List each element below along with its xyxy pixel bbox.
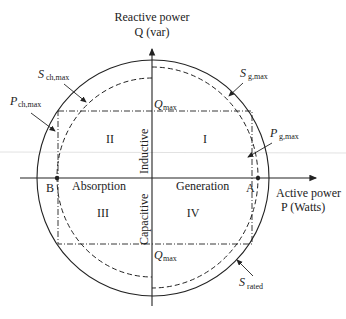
point-b-label: B <box>46 181 54 195</box>
s-rated-arrow <box>237 260 253 276</box>
svg-text:S: S <box>240 66 246 80</box>
s-ch-max-annotation: S ch,max <box>38 67 69 82</box>
region-capacitive-label: Capacitive <box>137 194 151 245</box>
scan-artifact-line <box>0 152 346 153</box>
svg-text:S: S <box>38 67 44 81</box>
region-absorption-label: Absorption <box>72 179 126 193</box>
quadrant-i-label: I <box>203 132 207 146</box>
svg-text:g,max: g,max <box>279 132 299 141</box>
q-max-bottom-annotation: Q max <box>154 248 177 263</box>
quadrant-iii-label: III <box>97 206 109 220</box>
svg-text:max: max <box>163 254 177 263</box>
p-axis-unit: P (Watts) <box>281 200 325 214</box>
p-ch-max-annotation: P ch,max <box>9 94 41 109</box>
region-inductive-label: Inductive <box>137 129 151 174</box>
s-ch-max-arrow <box>64 84 86 102</box>
q-max-top-annotation: Q max <box>154 97 177 112</box>
svg-text:P: P <box>9 94 18 108</box>
svg-text:rated: rated <box>247 282 263 291</box>
s-rated-annotation: S rated <box>239 275 263 291</box>
point-b-marker <box>55 176 59 180</box>
svg-text:ch,max: ch,max <box>46 73 69 82</box>
svg-text:ch,max: ch,max <box>18 100 41 109</box>
p-g-max-annotation: P g,max <box>269 126 299 141</box>
quadrant-ii-label: II <box>106 132 114 146</box>
p-axis-title: Active power <box>276 186 341 200</box>
svg-text:S: S <box>239 275 245 289</box>
s-g-max-annotation: S g,max <box>240 66 268 81</box>
s-g-max-arrow <box>229 83 243 96</box>
point-a-marker <box>256 176 260 180</box>
q-axis-title: Reactive power <box>115 10 190 24</box>
pq-capability-diagram: A B Reactive power Q (var) Active power … <box>0 0 346 319</box>
svg-text:max: max <box>163 103 177 112</box>
point-a-label: A <box>246 181 255 195</box>
q-axis-unit: Q (var) <box>135 25 170 39</box>
svg-text:g,max: g,max <box>248 72 268 81</box>
svg-text:Q: Q <box>154 248 163 262</box>
svg-text:P: P <box>269 126 278 140</box>
quadrant-iv-label: IV <box>187 206 200 220</box>
svg-text:Q: Q <box>154 97 163 111</box>
region-generation-label: Generation <box>176 179 229 193</box>
